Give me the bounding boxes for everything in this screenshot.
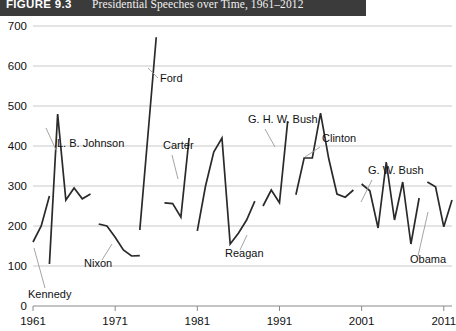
y-tick-label: 500 <box>8 100 27 112</box>
series-line <box>33 196 49 242</box>
y-tick-label: 0 <box>21 300 27 312</box>
line-chart: 0100200300400500600700 19611971198119912… <box>0 16 456 331</box>
annotation-label: Clinton <box>322 132 356 144</box>
annotation-label: Obama <box>410 253 447 265</box>
x-axis <box>33 306 452 311</box>
figure-title-bar: FIGURE 9.3 Presidential Speeches over Ti… <box>0 0 366 16</box>
annotation-leader-line <box>34 248 45 288</box>
x-tick-label: 2011 <box>431 315 456 327</box>
annotation-label: Carter <box>163 139 194 151</box>
annotation-label: Nixon <box>84 257 112 269</box>
annotation-label: G. H. W. Bush <box>248 113 318 125</box>
x-axis-labels: 196119711981199120012011 <box>20 315 456 327</box>
annotation-leader-line <box>418 212 428 256</box>
x-tick-label: 1961 <box>20 315 46 327</box>
annotation-label: Reagan <box>225 247 264 259</box>
annotation-label: Kennedy <box>28 288 72 300</box>
figure-caption: Presidential Speeches over Time, 1961–20… <box>92 0 304 10</box>
y-tick-label: 300 <box>8 180 27 192</box>
x-tick-label: 2001 <box>349 315 375 327</box>
annotation-leader-line <box>172 155 178 179</box>
y-tick-label: 100 <box>8 260 27 272</box>
series-line <box>99 224 140 256</box>
figure-container: FIGURE 9.3 Presidential Speeches over Ti… <box>0 0 456 331</box>
series-line <box>197 138 255 244</box>
annotation-leader-line <box>265 129 275 147</box>
x-tick-label: 1981 <box>185 315 211 327</box>
series-line <box>427 182 452 227</box>
chart-plot-area: 0100200300400500600700 19611971198119912… <box>0 16 456 331</box>
figure-number: FIGURE 9.3 <box>6 0 72 10</box>
series-line <box>296 113 354 197</box>
annotation-label: Ford <box>160 72 183 84</box>
annotation-label: G. W. Bush <box>368 164 424 176</box>
x-tick-label: 1971 <box>102 315 128 327</box>
annotation-label: L. B. Johnson <box>57 137 124 149</box>
y-tick-label: 700 <box>8 20 27 32</box>
y-axis-labels: 0100200300400500600700 <box>8 20 27 312</box>
annotation-leader-line <box>46 128 57 152</box>
y-tick-label: 600 <box>8 60 27 72</box>
y-tick-label: 200 <box>8 220 27 232</box>
series-lines <box>33 37 452 264</box>
x-tick-label: 1991 <box>267 315 293 327</box>
series-line <box>263 121 288 206</box>
y-tick-label: 400 <box>8 140 27 152</box>
